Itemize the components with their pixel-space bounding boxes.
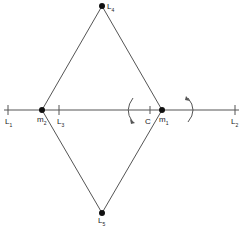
- label-l1: L1: [5, 118, 12, 128]
- label-c: C: [145, 118, 151, 126]
- label-l3: L3: [57, 118, 64, 128]
- lagrange-diagram: [0, 0, 243, 227]
- mass-m1: [159, 107, 165, 113]
- mass-m2: [39, 107, 45, 113]
- label-m2: m2: [37, 116, 46, 126]
- arrowhead-right-icon: [185, 96, 190, 101]
- label-m1: m1: [159, 116, 168, 126]
- arrowhead-left-icon: [130, 119, 135, 124]
- label-l5: L5: [98, 217, 105, 227]
- point-l4: [99, 3, 105, 9]
- label-l4: L4: [107, 3, 114, 13]
- label-l2: L2: [231, 118, 238, 128]
